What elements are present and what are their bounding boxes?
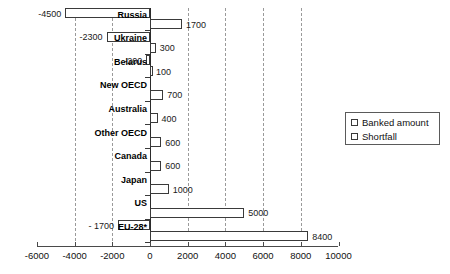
x-axis-tick-6000: [263, 242, 264, 246]
value-label-banked-japan: 1000: [173, 185, 193, 195]
value-label-banked-belarus: 100: [156, 67, 171, 77]
value-label-banked-us: 5000: [248, 208, 268, 218]
x-axis-tick--4000: [75, 242, 76, 246]
bar-banked-australia: [150, 113, 158, 123]
legend-item-banked-amount[interactable]: Banked amount: [351, 117, 429, 128]
row-tick-3: [145, 101, 150, 102]
bar-chart: -45001700Russia-2300300Ukraine-200100Bel…: [0, 0, 450, 274]
bar-banked-belarus: [150, 66, 153, 76]
category-label-belarus: Belarus: [46, 57, 147, 67]
bar-banked-other-oecd: [150, 137, 161, 147]
value-label-banked-eu-28-: 8400: [312, 232, 332, 242]
x-axis-tick-10000: [339, 242, 340, 246]
row-tick-6: [145, 172, 150, 173]
x-axis-tick-2000: [188, 242, 189, 246]
category-label-japan: Japan: [46, 175, 147, 185]
legend-swatch-0: [351, 119, 358, 126]
category-label-ukraine: Ukraine: [46, 33, 147, 43]
gridline-8000: [301, 8, 302, 246]
x-axis-tick-0: [150, 242, 151, 246]
value-label-banked-australia: 400: [162, 114, 177, 124]
x-axis-tick-label-10000: 10000: [309, 250, 369, 261]
row-tick-5: [145, 148, 150, 149]
value-label-banked-new-oecd: 700: [167, 90, 182, 100]
bar-banked-new-oecd: [150, 90, 163, 100]
category-label-eu-28-: EU-28*: [46, 222, 147, 232]
row-tick-4: [145, 124, 150, 125]
x-axis-tick--6000: [37, 242, 38, 246]
row-tick-7: [145, 195, 150, 196]
category-label-new-oecd: New OECD: [46, 80, 147, 90]
category-label-canada: Canada: [46, 151, 147, 161]
row-tick-2: [145, 77, 150, 78]
legend-item-shortfall[interactable]: Shortfall: [351, 131, 397, 142]
category-label-us: US: [46, 198, 147, 208]
value-label-banked-canada: 600: [165, 161, 180, 171]
legend-swatch-1: [351, 133, 358, 140]
value-label-banked-ukraine: 300: [160, 43, 175, 53]
category-label-russia: Russia: [46, 10, 147, 20]
bar-banked-canada: [150, 161, 161, 171]
legend-label-0: Banked amount: [362, 117, 429, 128]
category-label-australia: Australia: [46, 104, 147, 114]
bar-banked-ukraine: [150, 43, 156, 53]
legend-label-1: Shortfall: [362, 131, 397, 142]
bar-banked-us: [150, 208, 244, 218]
category-label-other-oecd: Other OECD: [46, 128, 147, 138]
bar-banked-russia: [150, 19, 182, 29]
x-axis-tick-4000: [225, 242, 226, 246]
x-axis-tick-8000: [301, 242, 302, 246]
bar-banked-japan: [150, 184, 169, 194]
value-label-banked-russia: 1700: [186, 20, 206, 30]
bar-banked-eu-28-: [150, 231, 308, 241]
x-axis-line: [37, 246, 339, 247]
plot-area: -45001700Russia-2300300Ukraine-200100Bel…: [0, 0, 450, 274]
value-label-banked-other-oecd: 600: [165, 138, 180, 148]
x-axis-tick--2000: [112, 242, 113, 246]
